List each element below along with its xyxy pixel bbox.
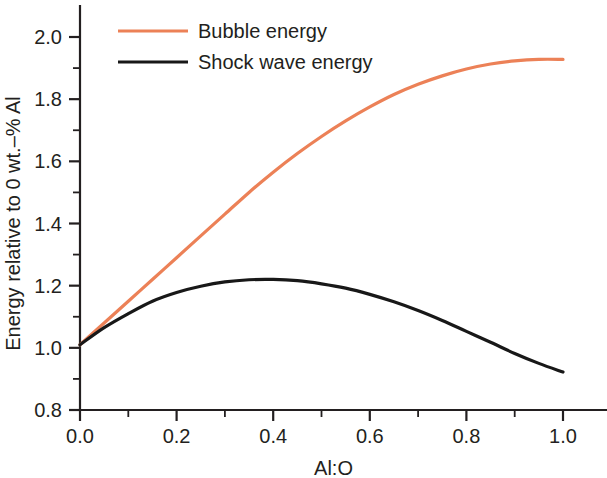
x-tick-label: 0.8 (452, 425, 480, 447)
y-tick-label: 1.4 (34, 213, 62, 235)
y-axis-tick-labels: 0.81.01.21.41.61.82.0 (34, 26, 62, 421)
y-tick-label: 2.0 (34, 26, 62, 48)
y-axis-title: Energy relative to 0 wt.–% Al (2, 96, 24, 351)
data-series-group (80, 59, 563, 372)
y-tick-label: 0.8 (34, 399, 62, 421)
x-tick-label: 0.2 (163, 425, 191, 447)
line-chart: 0.81.01.21.41.61.82.0 0.00.20.40.60.81.0… (0, 0, 607, 478)
chart-figure: 0.81.01.21.41.61.82.0 0.00.20.40.60.81.0… (0, 0, 607, 478)
x-tick-label: 0.4 (259, 425, 287, 447)
x-axis-title: Al:O (314, 457, 353, 478)
y-tick-label: 1.6 (34, 150, 62, 172)
y-tick-label: 1.2 (34, 275, 62, 297)
x-tick-label: 0.0 (66, 425, 94, 447)
series-line-shock-wave-energy (80, 279, 563, 372)
legend-label-shock-wave-energy: Shock wave energy (198, 51, 373, 73)
y-axis-major-ticks (69, 37, 80, 410)
x-axis-tick-labels: 0.00.20.40.60.81.0 (66, 425, 577, 447)
legend-label-bubble-energy: Bubble energy (198, 20, 327, 42)
x-tick-label: 1.0 (549, 425, 577, 447)
x-tick-label: 0.6 (356, 425, 384, 447)
chart-legend: Bubble energyShock wave energy (118, 20, 373, 73)
y-tick-label: 1.0 (34, 337, 62, 359)
y-tick-label: 1.8 (34, 88, 62, 110)
